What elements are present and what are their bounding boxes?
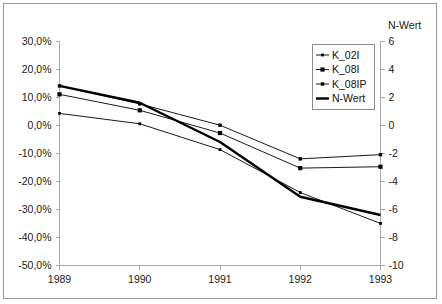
x-tick-label: 1989 xyxy=(48,273,72,285)
y2-tick-label: -8 xyxy=(389,231,398,243)
legend-entry-label: K_02I xyxy=(332,49,359,61)
x-tick-label: 1993 xyxy=(369,273,393,285)
x-axis-labels: 19891990199119921993 xyxy=(48,273,393,285)
y2-tick-label: 2 xyxy=(389,91,395,103)
x-tick-label: 1992 xyxy=(289,273,313,285)
legend-entry-label: N-Wert xyxy=(332,92,365,104)
data-point xyxy=(218,123,221,126)
data-point xyxy=(218,131,222,135)
y-tick-label: 20,0% xyxy=(22,63,52,75)
y-tick-label: -50,0% xyxy=(18,259,51,271)
y2-tick-label: 6 xyxy=(389,35,395,47)
data-point xyxy=(379,153,382,156)
y-tick-label: 10,0% xyxy=(22,91,52,103)
chart-figure: 30,0%20,0%10,0%0,0%-10,0%-20,0%-30,0%-40… xyxy=(0,0,442,304)
chart-legend: K_02IK_08IK_08IPN-Wert xyxy=(312,44,374,109)
chart-plot: 30,0%20,0%10,0%0,0%-10,0%-20,0%-30,0%-40… xyxy=(0,0,442,304)
y2-tick-label: 0 xyxy=(389,119,395,131)
data-point xyxy=(378,165,382,169)
data-point xyxy=(138,122,141,125)
x-tick-label: 1990 xyxy=(128,273,152,285)
y-tick-label: -40,0% xyxy=(18,231,51,243)
y-tick-label: -20,0% xyxy=(18,175,51,187)
legend-swatch-marker xyxy=(321,82,324,85)
data-point xyxy=(138,108,142,112)
legend-entry-label: K_08I xyxy=(332,63,359,75)
data-point xyxy=(299,157,302,160)
y-axis-left-ticks xyxy=(56,41,60,266)
legend-entry-label: K_08IP xyxy=(332,78,366,90)
data-point xyxy=(299,191,302,194)
y2-tick-label: -4 xyxy=(389,175,398,187)
y2-tick-label: -2 xyxy=(389,147,398,159)
x-axis-ticks xyxy=(60,266,381,270)
data-point xyxy=(298,166,302,170)
y-tick-label: -10,0% xyxy=(18,147,51,159)
data-point xyxy=(57,92,61,96)
y2-tick-label: 4 xyxy=(389,63,395,75)
y-tick-label: 30,0% xyxy=(22,35,52,47)
data-point xyxy=(219,148,222,151)
y2-tick-label: -10 xyxy=(389,259,404,271)
y-tick-label: -30,0% xyxy=(18,203,51,215)
series-line-k-02i xyxy=(60,113,381,223)
y-axis-left-labels: 30,0%20,0%10,0%0,0%-10,0%-20,0%-30,0%-40… xyxy=(18,35,51,272)
y2-tick-label: -6 xyxy=(389,203,398,215)
legend-swatch-marker xyxy=(321,54,324,57)
data-point xyxy=(58,112,61,115)
y-tick-label: 0,0% xyxy=(28,119,52,131)
y-axis-right-labels: 6420-2-4-6-8-10 xyxy=(389,35,404,272)
x-tick-label: 1991 xyxy=(208,273,232,285)
data-point xyxy=(379,222,382,225)
legend-swatch-marker xyxy=(320,67,324,71)
y2-axis-title: N-Wert xyxy=(388,19,421,31)
